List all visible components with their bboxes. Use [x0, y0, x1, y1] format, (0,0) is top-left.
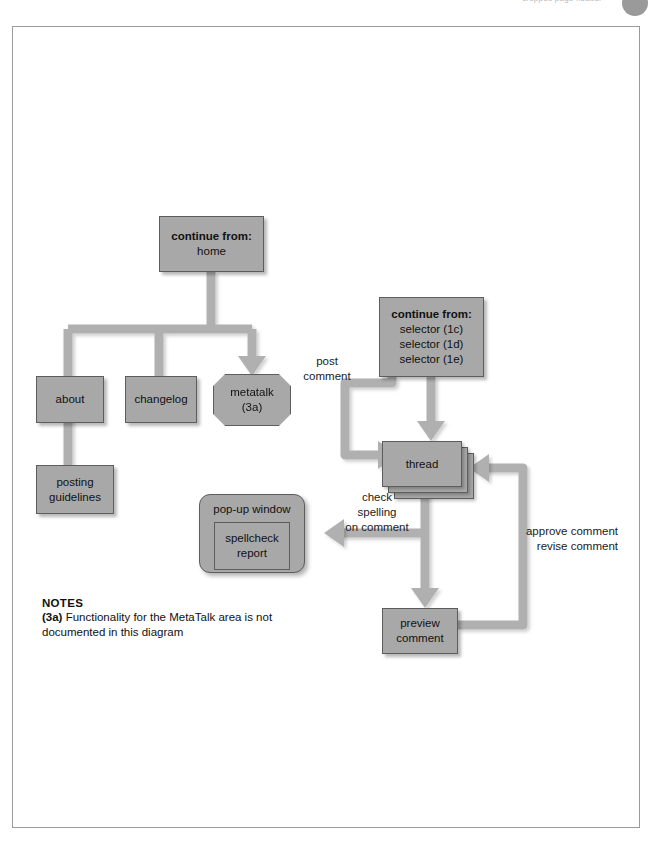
notes-block: NOTES (3a) Functionality for the MetaTal… — [42, 597, 302, 640]
edge-label-post-comment-line-2: comment — [292, 369, 362, 384]
node-popup-window-title: pop-up window — [213, 502, 290, 517]
node-about-label: about — [56, 392, 85, 407]
notes-ref: (3a) — [42, 611, 62, 623]
node-spellcheck-report-line-1: spellcheck — [225, 531, 279, 546]
notes-text: Functionality for the MetaTalk area is n… — [42, 611, 272, 638]
node-continue-home-title: continue from: — [171, 229, 252, 244]
node-metatalk[interactable]: metatalk (3a) — [213, 374, 291, 426]
edge-label-approve-revise: approve comment revise comment — [500, 524, 618, 554]
edge-label-approve-revise-line-1: approve comment — [500, 524, 618, 539]
node-continue-selectors-title: continue from: — [391, 307, 472, 322]
page-root: cropped page header — [0, 0, 654, 859]
notes-body: (3a) Functionality for the MetaTalk area… — [42, 610, 302, 640]
node-popup-window[interactable]: pop-up window spellcheck report — [199, 494, 305, 573]
connector-layer — [0, 0, 654, 859]
node-posting-guidelines[interactable]: posting guidelines — [36, 465, 114, 514]
node-changelog[interactable]: changelog — [125, 376, 197, 423]
node-continue-selectors-line-2: selector (1d) — [400, 337, 464, 352]
node-metatalk-ref: (3a) — [242, 400, 262, 415]
node-continue-selectors-line-3: selector (1e) — [400, 352, 464, 367]
node-continue-home[interactable]: continue from: home — [159, 216, 264, 272]
edge-label-post-comment-line-1: post — [292, 354, 362, 369]
node-continue-selectors-line-1: selector (1c) — [400, 322, 463, 337]
node-preview-comment-line-1: preview — [400, 616, 440, 631]
connector-group-left — [68, 272, 252, 465]
node-changelog-label: changelog — [134, 392, 187, 407]
node-continue-selectors[interactable]: continue from: selector (1c) selector (1… — [379, 297, 484, 377]
node-preview-comment[interactable]: preview comment — [382, 608, 458, 654]
edge-label-post-comment: post comment — [292, 354, 362, 384]
node-continue-home-line-1: home — [197, 244, 226, 259]
edge-label-check-spelling-line-1: check — [330, 490, 424, 505]
diagram-canvas — [0, 0, 654, 859]
node-preview-comment-line-2: comment — [396, 631, 443, 646]
edge-label-approve-revise-line-2: revise comment — [500, 539, 618, 554]
node-spellcheck-report[interactable]: spellcheck report — [214, 522, 290, 570]
node-thread-sheet-front: thread — [382, 441, 462, 487]
node-posting-guidelines-line-2: guidelines — [49, 490, 101, 505]
node-posting-guidelines-line-1: posting — [56, 475, 93, 490]
edge-label-check-spelling-line-3: on comment — [330, 520, 424, 535]
node-metatalk-label: metatalk — [230, 385, 273, 400]
edge-label-check-spelling-line-2: spelling — [330, 505, 424, 520]
edge-label-check-spelling: check spelling on comment — [330, 490, 424, 535]
arrow-to-metatalk — [238, 356, 266, 376]
node-spellcheck-report-line-2: report — [237, 546, 267, 561]
node-thread-label: thread — [406, 458, 439, 470]
notes-title: NOTES — [42, 597, 302, 609]
node-about[interactable]: about — [36, 376, 104, 423]
